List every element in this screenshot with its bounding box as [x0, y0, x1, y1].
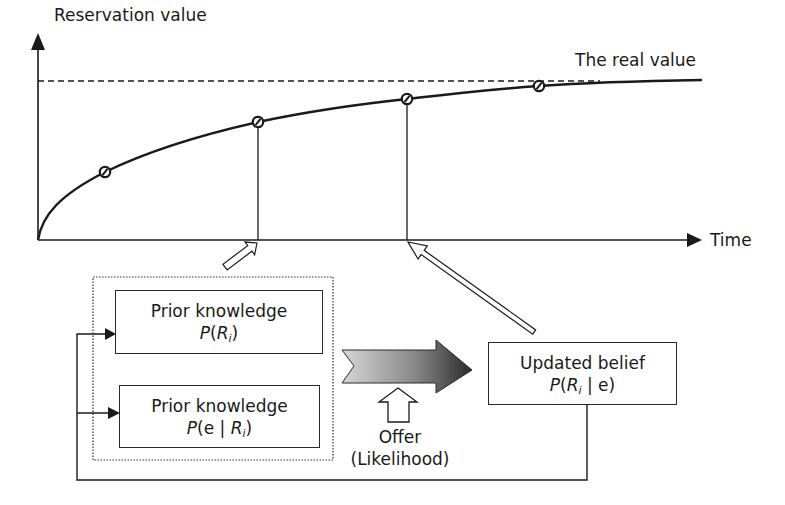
- offer-label: Offer (Likelihood): [340, 426, 460, 470]
- x-axis-arrowhead-icon: [687, 233, 702, 247]
- updated-title: Updated belief: [520, 352, 645, 374]
- offer-label-line1: Offer: [340, 426, 460, 448]
- y-axis-arrowhead-icon: [31, 33, 45, 50]
- marker-icon: [534, 81, 544, 91]
- marker-icon: [402, 94, 412, 104]
- x-axis-label: Time: [710, 230, 752, 250]
- updated-formula: P(Ri | e): [550, 374, 615, 396]
- x-axis: [38, 233, 702, 247]
- hollow-arrow-prior-icon: [220, 237, 262, 274]
- real-value-label: The real value: [575, 50, 696, 70]
- curve-markers: [100, 81, 544, 177]
- offer-label-line2: (Likelihood): [340, 448, 460, 470]
- prior-knowledge-box-1: Prior knowledge P(Ri): [115, 290, 323, 354]
- bayes-update-arrow-icon: [342, 340, 472, 393]
- marker-icon: [253, 117, 263, 127]
- y-axis-label: Reservation value: [54, 5, 207, 25]
- prior-1-formula: P(Ri): [200, 322, 238, 344]
- prior-2-title: Prior knowledge: [151, 395, 288, 417]
- updated-belief-box: Updated belief P(Ri | e): [488, 342, 677, 405]
- prior-1-title: Prior knowledge: [151, 300, 288, 322]
- prior-2-formula: P(e | Ri): [187, 417, 252, 439]
- offer-up-arrow-icon: [379, 388, 417, 422]
- marker-icon: [100, 167, 110, 177]
- hollow-arrow-updated-icon: [403, 235, 538, 338]
- reservation-curve: [38, 80, 702, 240]
- y-axis: [31, 33, 45, 240]
- prior-knowledge-box-2: Prior knowledge P(e | Ri): [119, 385, 320, 448]
